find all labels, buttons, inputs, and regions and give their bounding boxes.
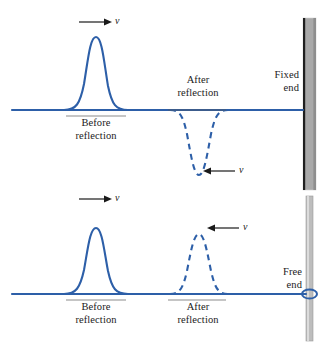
incident-pulse-free (64, 228, 128, 294)
before-reflection-label-fixed: Before reflection (51, 117, 141, 142)
fixed-end-wall (303, 18, 316, 190)
after-reflection-label-free: After reflection (153, 301, 243, 326)
velocity-arrow-left-free (207, 224, 239, 231)
incident-pulse-fixed (64, 37, 128, 110)
free-end-label: Free end (249, 266, 302, 291)
wave-reflection-figure: Before reflection After reflection Fixed… (0, 0, 326, 347)
velocity-label-incident-free: v (115, 192, 119, 203)
figure-canvas (0, 0, 326, 347)
velocity-label-reflected-fixed: v (239, 164, 243, 175)
before-reflection-label-free: Before reflection (51, 301, 141, 326)
after-reflection-label-fixed: After reflection (153, 74, 243, 99)
fixed-end-label: Fixed end (246, 69, 299, 94)
velocity-arrow-right-fixed (79, 18, 112, 25)
velocity-arrow-left-fixed (203, 167, 235, 174)
velocity-label-reflected-free: v (243, 221, 247, 232)
velocity-label-incident-fixed: v (115, 15, 119, 26)
reflected-pulse-fixed (170, 110, 228, 175)
reflected-pulse-free (170, 234, 228, 294)
free-end-rod (306, 196, 313, 341)
velocity-arrow-right-free (79, 195, 112, 202)
